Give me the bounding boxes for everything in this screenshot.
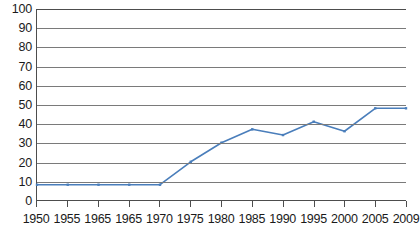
gridline-80	[37, 47, 406, 48]
y-tick-label-30: 30	[0, 137, 32, 150]
x-axis: 1950195519651965197019751980198519901995…	[0, 213, 420, 233]
x-tick-label-2000-10: 2000	[331, 213, 358, 226]
data-point-1950-0	[36, 184, 38, 186]
x-tick-1965-3	[129, 201, 130, 207]
x-tick-label-1950-0: 1950	[23, 213, 50, 226]
x-tick-label-1965-3: 1965	[115, 213, 142, 226]
x-tick-label-2009-12: 2009	[393, 213, 420, 226]
x-tick-label-1955-1: 1955	[54, 213, 81, 226]
plot-area	[36, 9, 406, 201]
y-tick-label-20: 20	[0, 156, 32, 169]
gridline-20	[37, 163, 406, 164]
data-point-2009-12	[405, 107, 407, 109]
data-point-1965-2	[97, 184, 99, 186]
x-tick-2000-10	[344, 201, 345, 207]
x-tick-2005-11	[375, 201, 376, 207]
x-tick-1950-0	[36, 201, 37, 207]
x-tick-1990-8	[283, 201, 284, 207]
x-tick-2009-12	[406, 201, 407, 207]
series-line-series-1	[37, 108, 406, 184]
x-tick-label-2005-11: 2005	[362, 213, 389, 226]
y-tick-label-10: 10	[0, 176, 32, 189]
data-point-1995-9	[313, 120, 315, 122]
gridline-100	[37, 9, 406, 10]
y-tick-label-50: 50	[0, 99, 32, 112]
x-tick-1975-5	[190, 201, 191, 207]
x-tick-1980-6	[221, 201, 222, 207]
y-tick-label-0: 0	[0, 195, 32, 208]
y-tick-label-90: 90	[0, 22, 32, 35]
y-tick-label-80: 80	[0, 41, 32, 54]
data-point-2005-11	[374, 107, 376, 109]
x-tick-label-1965-2: 1965	[84, 213, 111, 226]
x-tick-label-1985-7: 1985	[239, 213, 266, 226]
data-point-1985-7	[251, 128, 253, 130]
x-tick-1985-7	[252, 201, 253, 207]
gridline-30	[37, 143, 406, 144]
data-point-1955-1	[67, 184, 69, 186]
x-tick-1970-4	[159, 201, 160, 207]
gridline-40	[37, 124, 406, 125]
gridline-10	[37, 182, 406, 183]
y-tick-label-70: 70	[0, 60, 32, 73]
x-tick-1955-1	[67, 201, 68, 207]
data-point-1965-3	[128, 184, 130, 186]
data-point-2000-10	[343, 130, 345, 132]
x-tick-1995-9	[314, 201, 315, 207]
y-tick-label-100: 100	[0, 3, 32, 16]
gridline-50	[37, 105, 406, 106]
x-axis-ticks	[36, 201, 406, 208]
gridline-60	[37, 86, 406, 87]
gridline-70	[37, 67, 406, 68]
data-point-1970-4	[159, 184, 161, 186]
y-tick-label-40: 40	[0, 118, 32, 131]
x-tick-label-1980-6: 1980	[208, 213, 235, 226]
x-tick-label-1990-8: 1990	[269, 213, 296, 226]
x-tick-1965-2	[98, 201, 99, 207]
line-chart: 0102030405060708090100 19501955196519651…	[0, 0, 420, 239]
x-tick-label-1995-9: 1995	[300, 213, 327, 226]
x-tick-label-1970-4: 1970	[146, 213, 173, 226]
y-axis: 0102030405060708090100	[0, 0, 32, 210]
gridline-90	[37, 28, 406, 29]
y-tick-label-60: 60	[0, 80, 32, 93]
data-point-1990-8	[282, 134, 284, 136]
x-tick-label-1975-5: 1975	[177, 213, 204, 226]
